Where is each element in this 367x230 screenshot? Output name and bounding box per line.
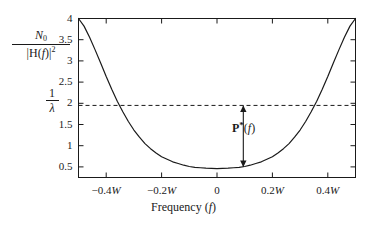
p-star-close-paren: ) bbox=[251, 121, 255, 135]
y-axis-tick-marks bbox=[79, 19, 356, 167]
y-tick-label: 3 bbox=[39, 54, 73, 66]
x-axis-title-text: Frequency ( bbox=[151, 200, 209, 214]
x-axis-title: Frequency (f) bbox=[0, 200, 367, 215]
y-tick-label: 1.5 bbox=[39, 118, 73, 130]
p-star-annotation-label: P*(f) bbox=[232, 120, 255, 136]
x-axis-title-close: ) bbox=[212, 200, 216, 214]
y-tick-label: 0.5 bbox=[39, 160, 73, 172]
noise-to-channel-curve bbox=[79, 19, 356, 169]
y-tick-label: 3.5 bbox=[39, 33, 73, 45]
y-tick-label: 4 bbox=[39, 12, 73, 24]
x-tick-label: 0.4W bbox=[302, 184, 354, 196]
x-tick-label: −0.4W bbox=[80, 184, 132, 196]
figure-container: N0 |H(f)|2 1 λ 0.511.522.533.54 −0.4W−0.… bbox=[0, 0, 367, 230]
x-tick-label: 0.2W bbox=[246, 184, 298, 196]
plot-frame bbox=[79, 19, 356, 178]
y-tick-label: 2.5 bbox=[39, 75, 73, 87]
x-tick-label: −0.2W bbox=[136, 184, 188, 196]
y-tick-label: 2 bbox=[39, 96, 73, 108]
y-tick-label: 1 bbox=[39, 139, 73, 151]
x-axis-tick-marks bbox=[106, 19, 328, 178]
p-star-arrow bbox=[240, 105, 246, 166]
x-tick-label: 0 bbox=[191, 184, 243, 196]
